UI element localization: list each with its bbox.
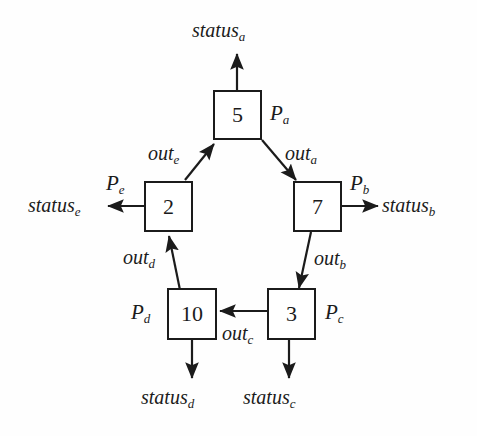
process-label-a-sub: a	[283, 112, 290, 127]
process-label-b: Pb	[350, 173, 369, 194]
status-label-d: statusd	[141, 387, 194, 407]
status-label-d-sub: d	[188, 396, 195, 411]
process-label-e-base: P	[106, 171, 119, 195]
node-box-b[interactable]: 7	[293, 181, 342, 232]
status-label-b-sub: b	[429, 204, 436, 219]
process-label-d-base: P	[131, 300, 144, 324]
edge-label-out-a: outa	[285, 143, 317, 163]
process-label-e: Pe	[106, 173, 125, 194]
status-label-e-sub: e	[75, 204, 81, 219]
process-label-b-sub: b	[363, 182, 370, 197]
diagram-canvas: 5 7 3 10 2 Pa Pb Pc Pd Pe outa outb outc…	[0, 0, 477, 436]
status-label-e: statuse	[28, 195, 80, 215]
node-box-e[interactable]: 2	[144, 181, 193, 232]
node-value-c: 3	[286, 303, 297, 325]
status-label-a-base: status	[192, 19, 239, 41]
status-label-e-base: status	[28, 194, 75, 216]
status-label-a-sub: a	[239, 29, 246, 44]
edge-label-out-c: outc	[222, 323, 253, 343]
status-label-b-base: status	[382, 194, 429, 216]
process-label-c-sub: c	[338, 311, 344, 326]
edge-label-out-b: outb	[314, 248, 346, 268]
node-value-e: 2	[163, 196, 174, 218]
status-label-a: statusa	[192, 20, 245, 40]
edge-label-out-e: oute	[148, 143, 179, 163]
edge-label-out-b-sub: b	[340, 257, 347, 272]
node-value-b: 7	[312, 196, 323, 218]
status-label-c-sub: c	[290, 396, 296, 411]
out-b-arrow	[299, 232, 311, 288]
process-label-b-base: P	[350, 171, 363, 195]
process-label-e-sub: e	[119, 182, 125, 197]
diagram-connections	[0, 0, 477, 436]
process-label-a-base: P	[270, 101, 283, 125]
node-value-d: 10	[181, 303, 203, 325]
edge-label-out-d-sub: d	[149, 256, 156, 271]
process-label-d: Pd	[131, 302, 150, 323]
edge-label-out-e-base: out	[148, 142, 174, 164]
status-label-d-base: status	[141, 386, 188, 408]
out-d-arrow	[169, 236, 180, 290]
node-box-d[interactable]: 10	[167, 288, 217, 340]
out-e-arrow	[185, 144, 214, 180]
node-box-a[interactable]: 5	[213, 90, 262, 140]
edge-label-out-e-sub: e	[174, 152, 180, 167]
edge-label-out-c-base: out	[222, 322, 248, 344]
edge-label-out-b-base: out	[314, 247, 340, 269]
process-label-c: Pc	[325, 302, 344, 323]
edge-label-out-c-sub: c	[248, 332, 254, 347]
process-label-d-sub: d	[144, 311, 151, 326]
node-box-c[interactable]: 3	[267, 288, 316, 340]
process-label-a: Pa	[270, 103, 289, 124]
status-label-c: statusc	[243, 387, 295, 407]
edge-label-out-d-base: out	[123, 246, 149, 268]
status-label-c-base: status	[243, 386, 290, 408]
process-label-c-base: P	[325, 300, 338, 324]
status-label-b: statusb	[382, 195, 435, 215]
edge-label-out-a-base: out	[285, 142, 311, 164]
node-value-a: 5	[232, 104, 243, 126]
edge-label-out-a-sub: a	[311, 152, 318, 167]
edge-label-out-d: outd	[123, 247, 155, 267]
